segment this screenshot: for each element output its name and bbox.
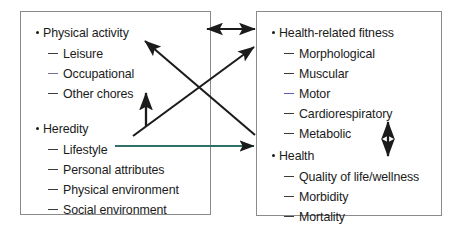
bullet-icon [272,154,275,157]
dash-icon [284,176,294,177]
dash-icon [48,209,58,210]
dash-icon [48,169,58,170]
item-metabolic: Metabolic [284,128,351,140]
item-occupational: Occupational [48,68,134,80]
heading-label: Physical activity [43,26,129,40]
item-mortality: Mortality [284,211,345,223]
item-motor: Motor [284,88,330,100]
item-label: Lifestyle [63,143,108,157]
item-cardiorespiratory: Cardiorespiratory [284,108,392,120]
dash-icon [284,196,294,197]
item-label: Quality of life/wellness [299,170,419,184]
dash-icon [48,149,58,150]
heading-heredity: Heredity [36,123,88,135]
heading-label: Health-related fitness [279,26,394,40]
item-label: Social environment [63,203,167,217]
bullet-icon [36,31,39,34]
heading-health: Health [272,150,314,162]
item-label: Leisure [63,47,103,61]
item-leisure: Leisure [48,48,103,60]
panel-outcomes: Health-related fitness Morphological Mus… [256,11,442,216]
item-label: Personal attributes [63,163,164,177]
dash-icon [48,73,58,74]
item-lifestyle: Lifestyle [48,144,108,156]
bullet-icon [272,31,275,34]
item-label: Physical environment [63,183,179,197]
heading-physical-activity: Physical activity [36,27,129,39]
dash-icon [284,73,294,74]
heading-label: Heredity [43,122,88,136]
item-social-environment: Social environment [48,204,167,216]
item-label: Muscular [299,67,348,81]
item-label: Morbidity [299,190,348,204]
item-label: Morphological [299,47,375,61]
dash-icon [48,93,58,94]
dash-icon [284,53,294,54]
heading-health-related-fitness: Health-related fitness [272,27,394,39]
item-label: Mortality [299,210,345,224]
dash-icon [48,53,58,54]
item-physical-environment: Physical environment [48,184,179,196]
item-label: Other chores [63,87,133,101]
item-label: Occupational [63,67,134,81]
dash-icon [48,189,58,190]
dash-icon [284,113,294,114]
panel-determinants: Physical activity Leisure Occupational O… [20,11,211,215]
item-morbidity: Morbidity [284,191,348,203]
dash-icon [284,93,294,94]
dash-icon [284,133,294,134]
item-other-chores: Other chores [48,88,133,100]
item-label: Motor [299,87,330,101]
diagram-canvas: Physical activity Leisure Occupational O… [0,0,462,234]
item-quality-of-life: Quality of life/wellness [284,171,419,183]
bullet-icon [36,127,39,130]
item-personal-attributes: Personal attributes [48,164,164,176]
heading-label: Health [279,149,314,163]
dash-icon [284,216,294,217]
item-morphological: Morphological [284,48,375,60]
item-label: Cardiorespiratory [299,107,392,121]
item-muscular: Muscular [284,68,348,80]
item-label: Metabolic [299,127,351,141]
